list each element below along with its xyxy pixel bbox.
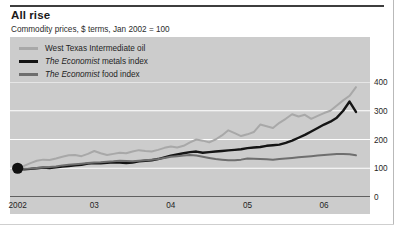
legend-item-food: The Economist food index bbox=[10, 68, 260, 81]
legend-item-oil: West Texas Intermediate oil bbox=[10, 42, 260, 55]
legend-swatch-oil bbox=[19, 47, 38, 50]
frame-bottom-border bbox=[0, 224, 394, 225]
chart-title: All rise bbox=[11, 9, 50, 21]
plot-area bbox=[10, 82, 370, 197]
x-tick-label: 05 bbox=[243, 201, 252, 210]
y-axis-labels: 0100200300400 bbox=[374, 82, 394, 197]
y-tick-label: 0 bbox=[374, 193, 379, 202]
y-tick-label: 100 bbox=[374, 164, 388, 173]
x-axis-labels: 200203040506 bbox=[10, 201, 370, 215]
legend-label-food: The Economist food index bbox=[45, 70, 140, 79]
chart-legend: West Texas Intermediate oil The Economis… bbox=[10, 42, 260, 81]
x-tick-label: 04 bbox=[166, 201, 175, 210]
legend-item-metals: The Economist metals index bbox=[10, 55, 260, 68]
chart-figure: All rise Commodity prices, $ terms, Jan … bbox=[0, 0, 394, 225]
legend-label-oil: West Texas Intermediate oil bbox=[45, 44, 145, 53]
plot-svg bbox=[10, 82, 370, 197]
title-top-rule bbox=[10, 5, 384, 7]
chart-subtitle: Commodity prices, $ terms, Jan 2002 = 10… bbox=[11, 25, 170, 34]
y-tick-label: 200 bbox=[374, 135, 388, 144]
y-tick-label: 300 bbox=[374, 106, 388, 115]
x-tick-label: 03 bbox=[90, 201, 99, 210]
legend-swatch-food bbox=[19, 73, 38, 76]
legend-label-metals: The Economist metals index bbox=[45, 57, 148, 66]
legend-swatch-metals bbox=[19, 60, 38, 64]
x-tick-label: 2002 bbox=[9, 201, 27, 210]
x-tick-label: 06 bbox=[319, 201, 328, 210]
y-tick-label: 400 bbox=[374, 78, 388, 87]
